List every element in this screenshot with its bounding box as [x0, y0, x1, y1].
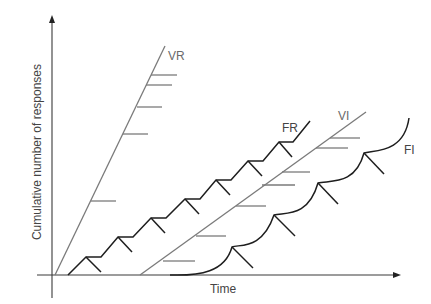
curve-vi: VI [140, 109, 366, 275]
fr-label: FR [282, 121, 298, 135]
fr-reinforcement-mark [248, 161, 262, 176]
y-axis-arrow-icon [49, 15, 55, 23]
fr-reinforcement-mark [216, 180, 230, 195]
fi-reinforcement-mark [364, 153, 384, 174]
y-axis-label: Cumulative number of responses [30, 64, 44, 240]
fi-reinforcement-mark [274, 215, 295, 236]
fr-reinforcement-mark [86, 257, 101, 272]
x-axis-arrow-icon [393, 272, 401, 278]
fi-reinforcement-mark [232, 247, 253, 268]
fr-reinforcement-mark [118, 237, 132, 252]
fr-reinforcement-mark [185, 199, 199, 214]
fr-reinforcement-mark [151, 218, 165, 233]
fr-reinforcement-mark [279, 142, 292, 157]
vi-label: VI [338, 109, 349, 123]
x-axis-label: Time [210, 282, 237, 296]
curve-vr: VR [55, 46, 185, 275]
curve-fr: FR [68, 121, 310, 275]
schedules-diagram: Cumulative number of responses Time VR F… [0, 0, 431, 304]
fi-label: FI [404, 143, 415, 157]
fi-reinforcement-mark [318, 183, 338, 204]
axes [37, 15, 401, 298]
vr-label: VR [168, 49, 185, 63]
